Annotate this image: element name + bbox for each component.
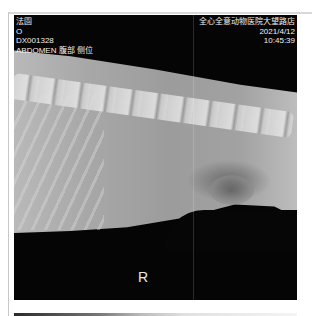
overlay-study-info: 全心全意动物医院大望路店 2021/4/12 10:45:39: [199, 17, 295, 46]
study-date: 2021/4/12: [199, 27, 295, 37]
xray-image-viewer[interactable]: 法園 O DX001328 ABDOMEN 腹部 侧位 全心全意动物医院大望路店…: [14, 15, 297, 300]
xray-intestinal-gas: [209, 175, 254, 205]
orientation-marker: R: [138, 269, 148, 285]
institution-name: 全心全意动物医院大望路店: [199, 17, 295, 27]
patient-sex: O: [16, 27, 93, 37]
study-id: DX001328: [16, 36, 93, 46]
xray-ventral-background: [164, 210, 297, 250]
study-time: 10:45:39: [199, 36, 295, 46]
patient-name: 法園: [16, 17, 93, 27]
left-divider: [8, 12, 9, 316]
top-divider: [8, 12, 312, 14]
xray-plate-seam: [193, 15, 194, 300]
body-part-view: ABDOMEN 腹部 侧位: [16, 46, 93, 56]
xray-ribs: [14, 95, 104, 230]
overlay-patient-info: 法園 O DX001328 ABDOMEN 腹部 侧位: [16, 17, 93, 55]
